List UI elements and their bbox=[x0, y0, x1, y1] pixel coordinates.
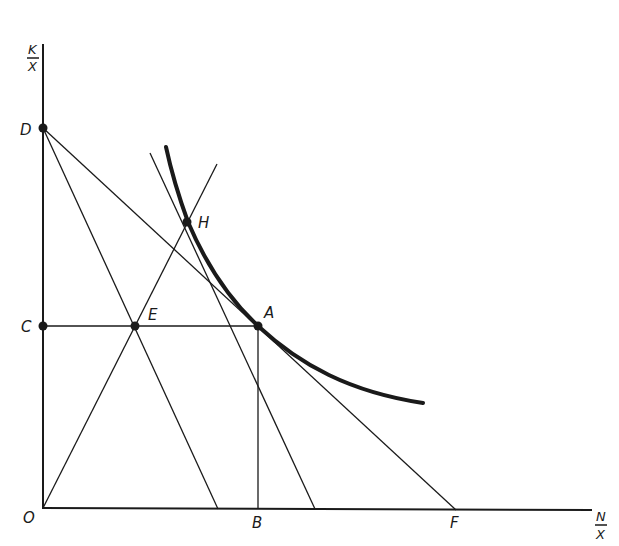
label-c: C bbox=[21, 318, 32, 336]
point-e bbox=[131, 322, 140, 331]
point-a bbox=[254, 322, 263, 331]
label-d: D bbox=[20, 121, 32, 139]
y-axis-label-x: X bbox=[27, 59, 38, 74]
ray-o-h bbox=[43, 164, 217, 508]
label-a: A bbox=[263, 304, 274, 322]
y-axis-label-k: K bbox=[28, 42, 38, 57]
point-c bbox=[39, 322, 48, 331]
isoquant-diagram: K X N X D C E A H O B F bbox=[0, 0, 619, 546]
line-d-steep bbox=[43, 128, 218, 509]
label-o: O bbox=[23, 509, 35, 527]
label-b: B bbox=[252, 514, 262, 532]
point-h bbox=[183, 218, 192, 227]
label-f: F bbox=[450, 514, 459, 532]
x-axis bbox=[43, 508, 592, 510]
isoquant-curve bbox=[166, 147, 423, 403]
x-axis-label-n: N bbox=[596, 509, 606, 524]
point-d bbox=[39, 124, 48, 133]
label-h: H bbox=[198, 214, 209, 232]
label-e: E bbox=[148, 306, 158, 324]
x-axis-label-x: X bbox=[595, 527, 606, 542]
line-through-h bbox=[150, 153, 315, 509]
